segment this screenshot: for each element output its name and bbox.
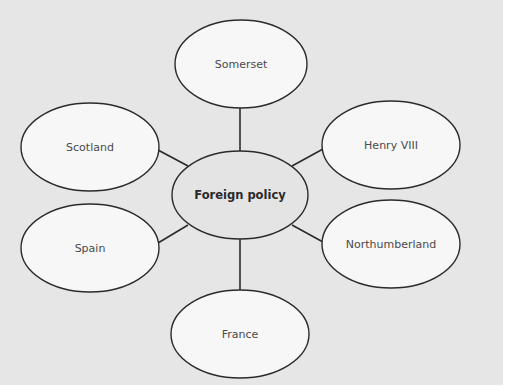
center-label: Foreign policy <box>194 188 286 202</box>
node-scotland: Scotland <box>21 103 159 191</box>
node-label: Scotland <box>66 141 114 154</box>
node-label: France <box>222 328 259 341</box>
node-northumberland: Northumberland <box>322 200 460 288</box>
node-label: Henry VIII <box>364 139 418 152</box>
node-france: France <box>171 290 309 378</box>
node-somerset: Somerset <box>175 20 307 108</box>
connector-scotland <box>158 150 188 166</box>
center-node: Foreign policy <box>172 151 308 239</box>
node-spain: Spain <box>21 204 159 292</box>
connector-northumberland <box>292 225 323 242</box>
node-label: Somerset <box>215 58 268 71</box>
mind-map-diagram: SomersetHenry VIIINorthumberlandFranceSp… <box>0 0 506 391</box>
connector-spain <box>158 225 188 243</box>
node-label: Spain <box>75 242 106 255</box>
node-henry-viii: Henry VIII <box>322 101 460 189</box>
connector-henry-viii <box>292 149 323 166</box>
node-label: Northumberland <box>346 238 436 251</box>
